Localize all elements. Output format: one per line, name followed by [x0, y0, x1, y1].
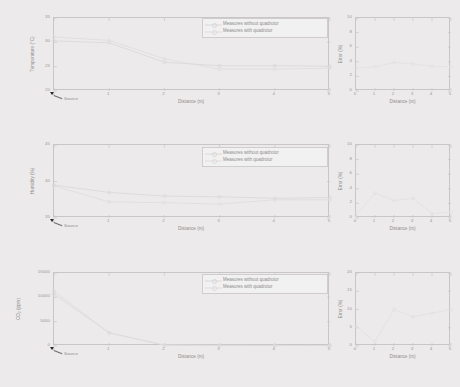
x-tick-label: 0	[354, 347, 356, 351]
chart-panel-co2-error: 01234505101520Distance (m)Error (%)	[0, 0, 460, 387]
x-tick-label: 3	[411, 347, 413, 351]
x-tick-label: 2	[392, 347, 394, 351]
y-tick-label: 15	[325, 288, 352, 292]
plot-area-co2-error	[355, 272, 450, 345]
y-tick-label: 20	[325, 270, 352, 274]
figure-canvas: 01234520253035Distance (m)Temperature (°…	[0, 0, 460, 387]
y-axis-title: Error (%)	[339, 299, 344, 318]
x-tick-label: 1	[373, 347, 375, 351]
plot-svg-co2-error	[356, 273, 451, 346]
y-tick-label: 0	[325, 343, 352, 347]
x-tick-label: 5	[449, 347, 451, 351]
x-axis-title: Distance (m)	[389, 355, 415, 360]
series-line	[356, 310, 451, 342]
y-tick-label: 5	[325, 325, 352, 329]
x-tick-label: 4	[430, 347, 432, 351]
